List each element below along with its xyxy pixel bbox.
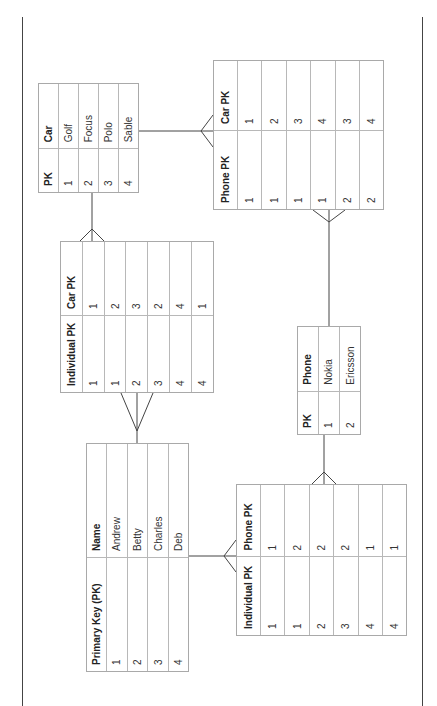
- car-table: PK Car 1Golf 2Focus 3Polo 4Sable: [38, 83, 139, 193]
- phone-table: PK Phone 1Nokia 2Ericsson: [297, 326, 361, 435]
- table-header: Individual PK: [61, 316, 82, 393]
- individual-table: Primary Key (PK) Name 1Andrew 2Betty 3Ch…: [86, 443, 189, 672]
- table-cell: 2: [340, 391, 360, 434]
- table-cell: Betty: [127, 444, 148, 558]
- table-cell: 2: [285, 485, 309, 557]
- table-cell: 2: [360, 131, 383, 209]
- table-cell: 4: [383, 557, 406, 635]
- table-header: Name: [87, 444, 107, 558]
- table-cell: 4: [119, 149, 138, 192]
- table-cell: Andrew: [107, 444, 128, 558]
- table-cell: 2: [262, 61, 286, 131]
- table-header: Individual PK: [237, 557, 260, 635]
- table-cell: Deb: [168, 444, 188, 558]
- table-header: Car: [39, 84, 58, 149]
- table-header: Car PK: [214, 61, 237, 131]
- table-cell: 3: [99, 149, 119, 192]
- table-cell: 1: [260, 485, 284, 557]
- er-diagram-canvas: Primary Key (PK) Name 1Andrew 2Betty 3Ch…: [0, 0, 437, 706]
- table-cell: 2: [309, 557, 333, 635]
- table-cell: Polo: [99, 84, 119, 149]
- table-cell: 1: [285, 557, 309, 635]
- individual-car-table: Individual PK Car PK 11 12 23 32 44 41: [60, 241, 214, 393]
- table-cell: 1: [107, 558, 128, 672]
- left-border-line: [22, 17, 23, 706]
- table-cell: 2: [126, 316, 148, 393]
- right-border-line: [422, 17, 423, 706]
- table-cell: 3: [148, 558, 169, 672]
- table-cell: 4: [311, 61, 335, 131]
- table-header: Car PK: [61, 242, 82, 316]
- table-cell: 1: [311, 131, 335, 209]
- table-cell: 1: [260, 557, 284, 635]
- table-cell: 2: [104, 242, 126, 316]
- table-cell: 1: [82, 316, 104, 393]
- table-header: Phone: [298, 327, 318, 391]
- table-cell: 1: [237, 61, 261, 131]
- table-cell: Sable: [119, 84, 138, 149]
- table-cell: 2: [309, 485, 333, 557]
- table-cell: 3: [126, 242, 148, 316]
- table-cell: 2: [127, 558, 148, 672]
- table-cell: 2: [148, 242, 170, 316]
- table-cell: 4: [168, 558, 188, 672]
- individual-phone-table: Individual PK Phone PK 11 12 22 32 41 41: [236, 484, 407, 636]
- table-cell: 1: [82, 242, 104, 316]
- table-cell: 4: [170, 242, 192, 316]
- table-cell: 2: [78, 149, 98, 192]
- diagram-stage: Primary Key (PK) Name 1Andrew 2Betty 3Ch…: [0, 0, 437, 706]
- table-header: PK: [298, 391, 318, 434]
- table-cell: 2: [335, 131, 359, 209]
- table-cell: Focus: [78, 84, 98, 149]
- table-cell: 2: [334, 485, 358, 557]
- table-cell: 1: [262, 131, 286, 209]
- table-header: PK: [39, 149, 58, 192]
- table-cell: 1: [104, 316, 126, 393]
- table-cell: 4: [360, 61, 383, 131]
- table-header: Primary Key (PK): [87, 558, 107, 672]
- table-cell: Nokia: [318, 327, 339, 391]
- table-cell: 4: [170, 316, 192, 393]
- table-cell: 4: [192, 316, 213, 393]
- table-cell: 3: [148, 316, 170, 393]
- table-cell: 1: [58, 149, 78, 192]
- table-cell: Golf: [58, 84, 78, 149]
- table-cell: 1: [358, 485, 382, 557]
- table-cell: Ericsson: [340, 327, 360, 391]
- table-header: Phone PK: [214, 131, 237, 209]
- phone-car-table: Phone PK Car PK 11 12 13 14 23 24: [213, 60, 384, 210]
- table-cell: 1: [192, 242, 213, 316]
- table-cell: 3: [334, 557, 358, 635]
- table-cell: 3: [286, 61, 310, 131]
- table-cell: 3: [335, 61, 359, 131]
- table-cell: 1: [383, 485, 406, 557]
- table-header: Phone PK: [237, 485, 260, 557]
- table-cell: Charles: [148, 444, 169, 558]
- table-cell: 1: [318, 391, 339, 434]
- table-cell: 4: [358, 557, 382, 635]
- table-cell: 1: [286, 131, 310, 209]
- table-cell: 1: [237, 131, 261, 209]
